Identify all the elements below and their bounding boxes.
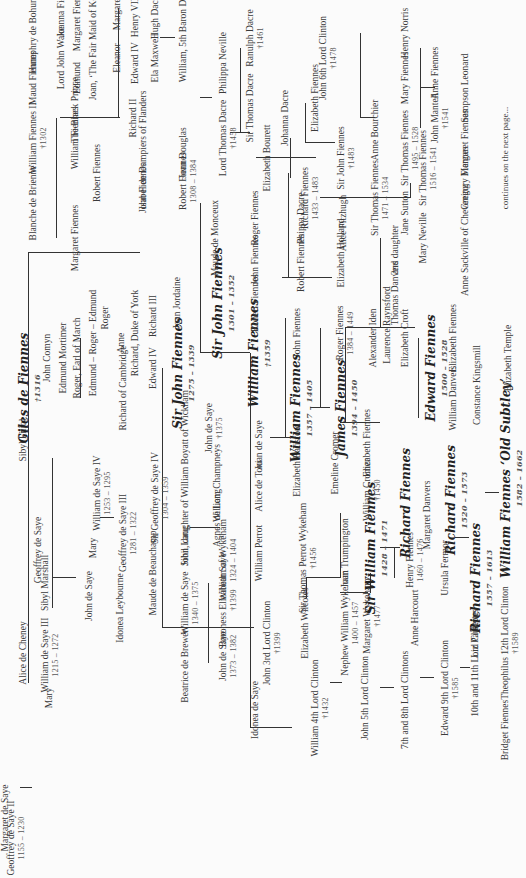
- person-johanna_dacre: Johanna Dacre: [280, 90, 291, 146]
- person-name: Edmund: [72, 62, 82, 94]
- person-dates: 1324 – 1404: [229, 519, 240, 601]
- connector: [200, 203, 201, 353]
- person-geoffrey3: Geoffrey de Saye III1281 – 1322: [118, 494, 139, 572]
- person-name: Richard Fiennes: [399, 448, 413, 558]
- person-name: William Perrot: [254, 525, 264, 581]
- person-dates: 1582 – 1662: [513, 378, 526, 578]
- person-sampson: Sampson Leonard: [460, 54, 471, 123]
- person-name: Joan Douglas: [178, 127, 188, 178]
- person-constance: Constance Kingsmill: [472, 345, 483, 425]
- person-name: Mary Neville: [418, 213, 428, 264]
- person-name: William, 5th Baron Dacre: [178, 0, 188, 82]
- person-humphry: Humphry de Bohun: [28, 0, 39, 74]
- person-name: Anne Bourchier: [370, 100, 380, 161]
- person-eliz_bourett: Elizabeth Bourett: [262, 125, 273, 192]
- person-name: Henry VIII: [130, 0, 140, 37]
- person-name: Jane Sutton: [400, 191, 410, 235]
- person-name: Maude de Monceux: [210, 200, 220, 276]
- person-name: Roger Fiennes: [335, 305, 345, 360]
- person-name: Richard of Cambridge: [118, 346, 128, 431]
- connector: [28, 252, 140, 253]
- person-beatrice: Beatrice de Brewer: [180, 629, 191, 702]
- person-name: Edward 9th Lord Clinton: [440, 640, 450, 736]
- person-dates: †1483: [347, 126, 358, 189]
- person-name: Joan de Saye: [254, 420, 264, 470]
- person-dates: †1461: [256, 9, 267, 66]
- person-dates: 1384 – 1449: [346, 305, 357, 360]
- person-name: 10th and 11th Lord Clintons: [470, 609, 480, 716]
- person-william_perrot: William Perrot: [254, 525, 265, 581]
- person-name: Edward Fiennes: [424, 314, 438, 421]
- connector: [360, 33, 361, 118]
- person-edmund_k: Edmund: [72, 62, 83, 94]
- person-dates: 1281 – 1322: [129, 494, 140, 572]
- connector: [240, 48, 241, 133]
- person-blanche: Blanche de Brienne: [28, 166, 39, 241]
- person-name: Edward IV: [148, 347, 158, 389]
- person-name: Margaret Fiennes: [70, 205, 80, 272]
- person-dates: †1359: [261, 299, 274, 408]
- person-john_mantell: John Mantell†1541: [430, 93, 451, 143]
- person-name: Sir Thomas Dacre: [245, 74, 255, 143]
- person-john_f2: John Fiennes: [292, 308, 303, 358]
- person-name: Isabel de Dampiers of Flanders: [138, 91, 148, 210]
- person-robert_f0: Robert Fiennes: [92, 144, 103, 202]
- connector: [320, 328, 321, 408]
- person-name: Elizabeth Croft: [400, 309, 410, 367]
- person-hugh_dacre: Hugh Dacre: [150, 0, 161, 39]
- person-name: Geoffrey de Saye: [33, 517, 43, 583]
- person-richard3: Richard III: [148, 295, 159, 337]
- person-edmund_mortimer: Edmund Mortimer: [58, 323, 69, 394]
- person-alice_cheney: Alice de Cheney: [18, 621, 29, 684]
- person-name: Joan Trumpington: [340, 518, 350, 587]
- person-name: Hugh Dacre: [150, 0, 160, 39]
- person-name: Richard, Duke of York: [130, 290, 140, 376]
- person-name: Mary Fiennes: [400, 52, 410, 105]
- person-name: Margaret Danvers: [422, 481, 432, 550]
- person-name: John de Saye: [204, 403, 214, 453]
- person-name: Richard II: [128, 99, 138, 138]
- person-name: Henry Norris: [400, 8, 410, 58]
- person-name: Alice de Cheney: [18, 621, 28, 684]
- person-name: Idonea de Saye: [250, 681, 260, 739]
- person-sir_john_f1: Sir John Fiennes1275 – 1339: [172, 317, 198, 429]
- connector: [330, 682, 342, 683]
- person-clintons78: 7th and 8th Lord Clintons: [400, 651, 411, 749]
- person-name: William de Saye IV: [92, 455, 102, 530]
- person-sir_thomas_f2: Sir Thomas Fiennes1495 – 1528: [400, 110, 421, 186]
- person-name: Geoffrey de Saye III: [118, 494, 128, 572]
- family-tree-page: Geoffrey de Saye II1155 – 1230Margaret d…: [0, 0, 526, 878]
- person-dates: †1456: [309, 503, 320, 613]
- person-name: John Mantell: [430, 93, 440, 143]
- person-maude_monceux: Maude de Monceux: [210, 200, 221, 276]
- person-william_5baron: William, 5th Baron Dacre: [178, 0, 189, 82]
- person-henry8: Henry VIII: [130, 0, 141, 37]
- person-geoffrey4: Sir Geoffrey de Saye IV1304 – 1359: [150, 452, 171, 544]
- person-dates: †1458: [229, 100, 240, 176]
- person-john_ds3: John de Saye†1375: [204, 403, 225, 453]
- person-name: Joan, ‘The Fair Maid of Kent’: [88, 0, 98, 100]
- person-roger2: Roger: [100, 306, 111, 329]
- person-second_daughter: 2nd daughter: [390, 225, 401, 275]
- person-dates: 1357 – 1405: [303, 354, 316, 463]
- person-name: William Fiennes II: [28, 102, 38, 173]
- connector: [394, 548, 395, 578]
- person-dates: †1399: [273, 601, 284, 686]
- person-name: William de Saye III: [40, 618, 50, 693]
- person-dates: 1253 – 1295: [103, 455, 114, 530]
- person-name: Roger Fiennes: [250, 190, 260, 245]
- person-name: Anne Fiennes: [430, 47, 440, 100]
- connector: [282, 277, 332, 278]
- person-name: William Fiennes ‘Old Subtley’: [499, 378, 513, 578]
- person-name: John 5th Lord Clinton: [360, 656, 370, 740]
- person-dates: †1478: [329, 16, 340, 100]
- person-name: John 6th Lord Clinton: [318, 16, 328, 100]
- person-name: Joan Jordaine: [172, 277, 182, 329]
- person-alexander_iden: Alexander Iden: [368, 309, 379, 368]
- connector: [460, 667, 470, 668]
- person-name: John de Saye: [84, 571, 94, 621]
- person-name: John Fiennes: [292, 308, 302, 358]
- person-richard_york: Richard, Duke of York: [130, 290, 141, 376]
- person-john_de_saye1: John de Saye: [84, 571, 95, 621]
- person-name: 2nd daughter: [390, 225, 400, 275]
